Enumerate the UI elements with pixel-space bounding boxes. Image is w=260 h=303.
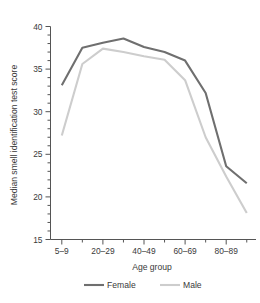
y-axis-title: Median smell identification test score (9, 65, 19, 206)
x-tick-label: 20–29 (91, 246, 115, 256)
x-tick-label: 80–89 (215, 246, 239, 256)
x-tick-label: 40–49 (132, 246, 156, 256)
x-axis-title: Age group (132, 262, 172, 272)
legend-label-female: Female (107, 280, 136, 290)
x-tick-label: 60–69 (173, 246, 197, 256)
line-chart: Median smell identification test score A… (0, 0, 260, 303)
y-tick-label: 20 (33, 192, 43, 202)
chart-legend: FemaleMale (84, 280, 202, 290)
series-group (62, 38, 247, 213)
series-line-male (62, 49, 247, 213)
y-tick-label: 15 (33, 235, 43, 245)
y-tick-label: 35 (33, 64, 43, 74)
x-tick-label: 5–9 (55, 246, 69, 256)
y-tick-label: 40 (33, 22, 43, 32)
chart-figure: Median smell identification test score A… (0, 0, 260, 303)
y-tick-label: 25 (33, 149, 43, 159)
legend-label-male: Male (183, 280, 202, 290)
y-tick-group: 403530252015 (33, 22, 50, 245)
y-tick-label: 30 (33, 107, 43, 117)
x-tick-group: 5–920–2940–4960–6980–89 (55, 240, 247, 257)
